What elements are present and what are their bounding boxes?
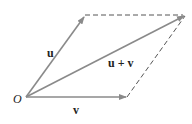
origin-label: O	[13, 93, 22, 105]
vector-u	[26, 17, 84, 97]
v-label: v	[73, 104, 79, 116]
u-label: u	[47, 47, 54, 59]
dashed-right-edge	[127, 16, 185, 97]
parallelogram-diagram	[0, 0, 192, 124]
sum-label: u + v	[108, 57, 134, 69]
